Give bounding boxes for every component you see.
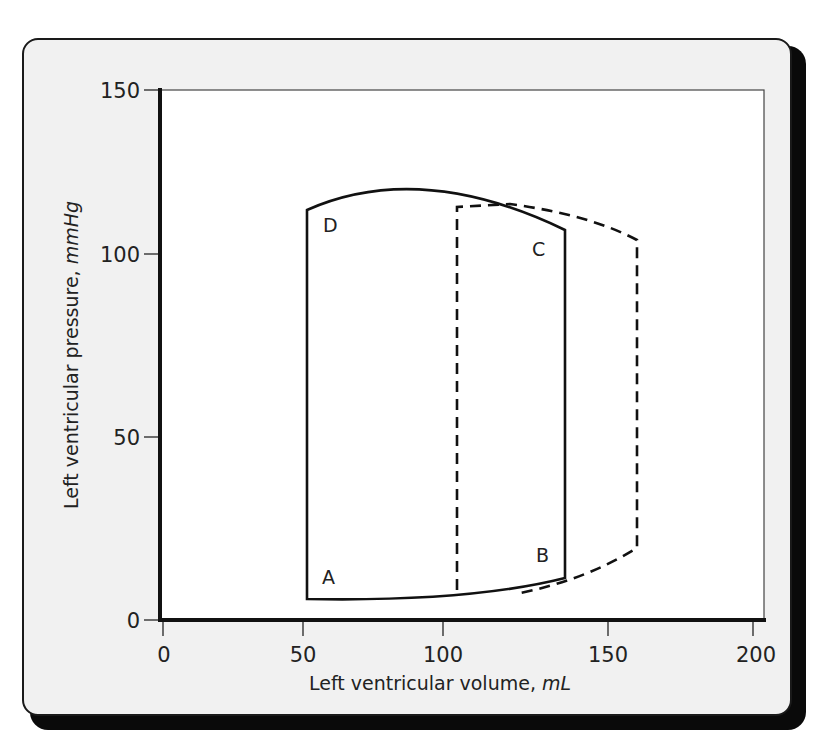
label-c: C (532, 238, 545, 260)
x-tick-label: 50 (290, 643, 317, 667)
y-tick-label: 0 (127, 609, 140, 633)
y-tick-label: 150 (100, 79, 140, 103)
y-tick-labels: 150 100 50 0 (100, 79, 140, 633)
pressure-volume-chart: 150 100 50 0 0 50 100 150 200 Left ventr… (0, 0, 828, 753)
y-axis-ticks (144, 90, 158, 620)
y-tick-label: 100 (100, 243, 140, 267)
x-tick-label: 200 (736, 643, 776, 667)
label-b: B (536, 544, 549, 566)
y-tick-label: 50 (113, 426, 140, 450)
x-axis-title: Left ventricular volume, mL (309, 672, 571, 694)
x-tick-label: 150 (588, 643, 628, 667)
label-d: D (323, 214, 338, 236)
plot-area (160, 90, 764, 620)
x-axis-ticks (163, 622, 753, 636)
x-tick-labels: 0 50 100 150 200 (157, 643, 776, 667)
x-tick-label: 0 (157, 643, 170, 667)
y-axis-title: Left ventricular pressure, mmHg (60, 201, 82, 509)
x-tick-label: 100 (423, 643, 463, 667)
label-a: A (322, 566, 335, 588)
